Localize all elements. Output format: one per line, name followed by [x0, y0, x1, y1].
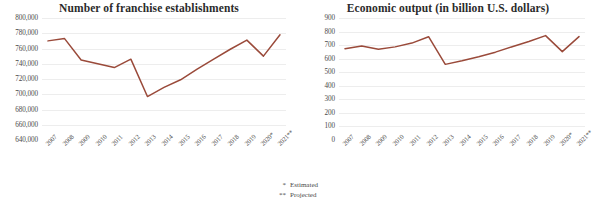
y-axis-tick-label: 200	[325, 109, 339, 117]
line-series	[42, 18, 286, 140]
footnotes: *Estimated**Projected	[272, 180, 318, 200]
y-axis-tick-label: 760,000	[15, 45, 42, 53]
y-axis-labels: 9008007006005004003002001000	[299, 18, 339, 140]
y-axis-tick-label: 680,000	[15, 106, 42, 114]
footnote-marker: *	[272, 180, 286, 190]
chart-panel-economic-output: Economic output (in billion U.S. dollars…	[299, 0, 597, 180]
y-axis-tick-label: 400	[325, 82, 339, 90]
figure-root: Number of franchise establishments 800,0…	[0, 0, 597, 208]
y-axis-tick-label: 300	[325, 95, 339, 103]
y-axis-tick-label: 800	[325, 28, 339, 36]
chart-title: Economic output (in billion U.S. dollars…	[299, 2, 597, 14]
y-axis-tick-label: 800,000	[15, 14, 42, 22]
x-axis-labels: 2007200820092010201120122013201420152016…	[0, 140, 298, 180]
y-axis-tick-label: 500	[325, 68, 339, 76]
chart-panel-franchise-establishments: Number of franchise establishments 800,0…	[0, 0, 298, 180]
y-axis-tick-label: 700,000	[15, 90, 42, 98]
data-line	[48, 35, 280, 97]
x-axis-labels: 2007200820092010201120122013201420152016…	[299, 140, 597, 180]
y-axis-tick-label: 720,000	[15, 75, 42, 83]
y-axis-tick-label: 780,000	[15, 29, 42, 37]
footnote-marker: **	[272, 190, 286, 200]
y-axis-tick-label: 660,000	[15, 121, 42, 129]
y-axis-tick-label: 740,000	[15, 60, 42, 68]
footnote-row: **Projected	[272, 190, 318, 200]
y-axis-tick-label: 900	[325, 14, 339, 22]
y-axis-tick-label: 100	[325, 122, 339, 130]
line-series	[339, 18, 585, 140]
data-line	[345, 36, 579, 65]
y-axis-tick-label: 600	[325, 55, 339, 63]
y-axis-labels: 800,000780,000760,000740,000720,000700,0…	[0, 18, 42, 140]
footnote-label: Projected	[290, 191, 316, 199]
y-axis-tick-label: 700	[325, 41, 339, 49]
chart-title: Number of franchise establishments	[0, 2, 298, 14]
footnote-label: Estimated	[290, 181, 318, 189]
plot-area: 800,000780,000760,000740,000720,000700,0…	[0, 18, 298, 140]
footnote-row: *Estimated	[272, 180, 318, 190]
plot-area: 9008007006005004003002001000	[299, 18, 597, 140]
